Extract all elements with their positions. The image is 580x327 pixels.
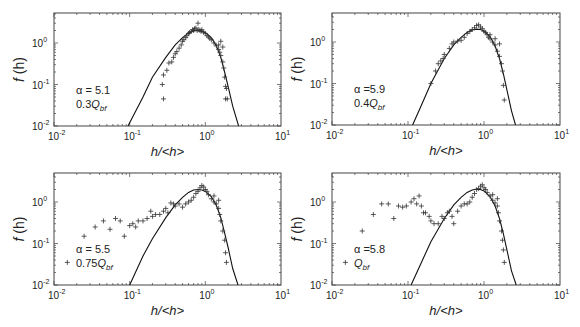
data-marker bbox=[118, 218, 123, 223]
data-marker bbox=[148, 209, 153, 214]
data-marker bbox=[161, 96, 166, 101]
panel-bottom-right: 10-210-110010110-210-1100f (h)h/<h>α =5.… bbox=[289, 173, 569, 318]
data-marker bbox=[371, 212, 376, 217]
x-tick-label: 101 bbox=[554, 128, 569, 141]
data-marker bbox=[412, 196, 417, 201]
alpha-annotation: α = 5.1 bbox=[76, 84, 110, 96]
x-tick-label: 101 bbox=[275, 129, 290, 142]
x-tick-label: 100 bbox=[478, 128, 493, 141]
data-marker bbox=[409, 200, 414, 205]
data-marker bbox=[82, 234, 87, 239]
y-tick-label: 100 bbox=[32, 195, 47, 208]
y-tick-label: 10-1 bbox=[310, 77, 327, 90]
data-marker bbox=[169, 59, 174, 64]
data-marker bbox=[93, 224, 98, 229]
alpha-annotation: α =5.9 bbox=[354, 83, 385, 95]
x-tick-label: 10-2 bbox=[48, 288, 65, 301]
data-marker bbox=[447, 46, 452, 51]
y-tick-label: 10-2 bbox=[32, 278, 49, 291]
x-tick-label: 10-2 bbox=[326, 128, 343, 141]
data-marker bbox=[161, 209, 166, 214]
data-marker bbox=[404, 204, 409, 209]
x-tick-label: 10-1 bbox=[124, 129, 141, 142]
data-marker bbox=[157, 212, 162, 217]
data-marker bbox=[495, 49, 500, 54]
figure: 10-210-110010110-210-1100f (h)h/<h>α = 5… bbox=[0, 0, 580, 327]
data-marker bbox=[133, 224, 138, 229]
y-tick-label: 10-2 bbox=[310, 278, 327, 291]
data-marker bbox=[488, 193, 493, 198]
data-marker bbox=[164, 68, 169, 73]
x-tick-label: 10-1 bbox=[124, 288, 141, 301]
y-axis-label: f (h) bbox=[11, 217, 27, 242]
y-tick-label: 100 bbox=[310, 195, 325, 208]
data-marker bbox=[500, 69, 505, 74]
data-marker bbox=[161, 72, 166, 77]
data-marker bbox=[168, 200, 173, 205]
data-marker bbox=[451, 221, 456, 226]
data-marker bbox=[196, 21, 201, 26]
data-marker bbox=[501, 247, 506, 252]
data-marker bbox=[223, 250, 228, 255]
data-marker bbox=[217, 212, 222, 217]
x-axis-label: h/<h> bbox=[429, 143, 463, 158]
data-marker bbox=[113, 216, 118, 221]
data-marker bbox=[221, 65, 226, 70]
data-marker bbox=[497, 218, 502, 223]
panel-bottom-left: 10-210-110010110-210-1100f (h)h/<h>α = 5… bbox=[11, 173, 290, 318]
data-marker bbox=[428, 81, 433, 86]
data-marker bbox=[490, 192, 495, 197]
data-marker bbox=[419, 204, 424, 209]
data-marker bbox=[502, 260, 507, 265]
panel-top-left: 10-210-110010110-210-1100f (h)h/<h>α = 5… bbox=[11, 13, 290, 159]
y-axis-label: f (h) bbox=[11, 57, 27, 82]
y-tick-label: 10-2 bbox=[32, 119, 49, 132]
data-marker bbox=[65, 260, 70, 265]
x-tick-label: 100 bbox=[478, 288, 493, 301]
x-tick-label: 100 bbox=[199, 129, 214, 142]
x-tick-label: 10-1 bbox=[402, 128, 419, 141]
x-tick-label: 10-2 bbox=[48, 129, 65, 142]
data-marker bbox=[414, 201, 419, 206]
data-marker bbox=[145, 216, 150, 221]
x-tick-label: 101 bbox=[554, 288, 569, 301]
data-marker bbox=[427, 214, 432, 219]
data-marker bbox=[165, 210, 170, 215]
data-marker bbox=[216, 198, 221, 203]
y-tick-label: 10-1 bbox=[310, 237, 327, 250]
data-marker bbox=[191, 195, 196, 200]
data-marker bbox=[160, 82, 165, 87]
data-marker bbox=[493, 36, 498, 41]
data-marker bbox=[108, 227, 113, 232]
fit-curve bbox=[413, 29, 516, 125]
y-axis-label: f (h) bbox=[289, 217, 305, 242]
discharge-annotation: Qbf bbox=[354, 257, 370, 272]
discharge-annotation: 0.3Qbf bbox=[76, 98, 107, 113]
x-tick-label: 100 bbox=[199, 288, 214, 301]
data-marker bbox=[122, 234, 127, 239]
data-marker bbox=[136, 218, 141, 223]
data-marker bbox=[396, 204, 401, 209]
data-marker bbox=[495, 196, 500, 201]
data-marker bbox=[224, 260, 229, 265]
discharge-annotation: 0.4Qbf bbox=[354, 97, 385, 112]
data-marker bbox=[379, 201, 384, 206]
data-marker bbox=[497, 41, 502, 46]
data-marker bbox=[502, 98, 507, 103]
data-marker bbox=[343, 260, 348, 265]
data-marker bbox=[455, 209, 460, 214]
data-marker bbox=[140, 218, 145, 223]
x-axis-label: h/<h> bbox=[151, 303, 185, 318]
data-marker bbox=[470, 195, 475, 200]
discharge-annotation: 0.75Qbf bbox=[76, 257, 113, 272]
data-marker bbox=[450, 214, 455, 219]
data-marker bbox=[180, 205, 185, 210]
data-marker bbox=[101, 218, 106, 223]
alpha-annotation: α =5.8 bbox=[354, 243, 385, 255]
y-tick-label: 10-2 bbox=[310, 118, 327, 131]
y-tick-label: 10-1 bbox=[32, 237, 49, 250]
data-marker bbox=[417, 193, 422, 198]
alpha-annotation: α = 5.5 bbox=[76, 243, 110, 255]
data-marker bbox=[360, 229, 365, 234]
data-marker bbox=[400, 205, 405, 210]
